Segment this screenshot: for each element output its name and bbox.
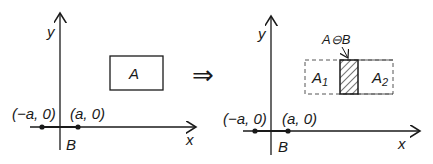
a2-label: A2 [371,69,388,88]
segment-b-label: B [278,138,288,155]
right-panel: y x A1 A2 A⊖B (−a, 0) (a, 0) B [223,16,420,155]
point-pos-label: (a, 0) [70,105,105,122]
x-axis-label: x [397,135,406,152]
left-panel: y x A (−a, 0) (a, 0) B [12,13,196,153]
y-axis-label: y [257,25,267,42]
erosion-result-rect [340,60,358,94]
implies-arrow-icon: ⇒ [192,60,214,90]
y-axis-label: y [46,23,56,40]
point-pos-label: (a, 0) [282,110,317,127]
erosion-diagram: y x A (−a, 0) (a, 0) B ⇒ y x A1 A2 A⊖B (… [0,0,433,164]
x-axis-label: x [185,131,194,148]
erosion-result-label: A⊖B [321,32,351,47]
point-neg-label: (−a, 0) [223,110,267,127]
segment-b-label: B [66,136,76,153]
point-neg-label: (−a, 0) [12,105,56,122]
set-a-label: A [128,65,139,82]
pointer-arrow [342,47,348,58]
a1-label: A1 [311,69,328,88]
